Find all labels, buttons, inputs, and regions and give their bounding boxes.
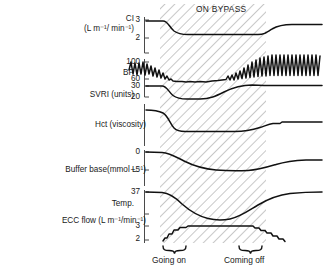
tick-ci-3: 3 <box>118 15 140 24</box>
tick-ecc-2: 2 <box>118 234 140 243</box>
tick-ecc-3: 3 <box>118 221 140 230</box>
on-bypass-band <box>160 4 266 243</box>
tick-buffer-minus5: −5 <box>114 165 140 174</box>
brace-label-going-on: Going on <box>152 255 186 265</box>
tick-ci-2: 2 <box>118 33 140 42</box>
tick-svri-20: 20 <box>118 92 140 101</box>
brace-coming-off <box>239 246 262 254</box>
row-label-temp: Temp. <box>112 199 134 209</box>
brace-label-coming-off: Coming off <box>224 255 264 265</box>
row-label-hct: Hct (viscosity) <box>95 120 146 130</box>
physiology-figure: ON BYPASS CI (L m⁻¹/ min⁻¹) BP SVRI (uni… <box>0 0 327 269</box>
on-bypass-label: ON BYPASS <box>196 4 246 14</box>
tick-temp-37: 37 <box>114 187 140 196</box>
tick-buffer-0: 0 <box>118 147 140 156</box>
tick-bp-100: 100 <box>111 57 140 66</box>
row-label-ci-unit: (L m⁻¹/ min⁻¹) <box>84 24 134 34</box>
bypass-trace-plot <box>0 0 327 269</box>
axis-spines <box>145 17 150 243</box>
brace-group <box>163 246 262 254</box>
brace-going-on <box>163 246 186 254</box>
tick-svri-30: 30 <box>118 81 140 90</box>
